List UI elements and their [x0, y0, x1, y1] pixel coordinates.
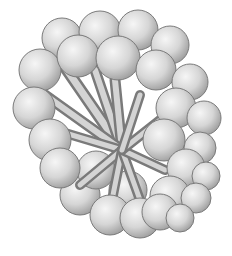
acinus-sphere: [136, 50, 176, 90]
acinus-sphere: [19, 49, 61, 91]
acinus-sphere: [187, 101, 221, 135]
acinus-sphere: [166, 204, 194, 232]
acinar-cluster-figure: [0, 0, 232, 256]
acinus-sphere: [40, 148, 80, 188]
acinus-sphere: [96, 36, 140, 80]
gland-illustration: [0, 0, 232, 256]
acinus-sphere: [57, 35, 99, 77]
